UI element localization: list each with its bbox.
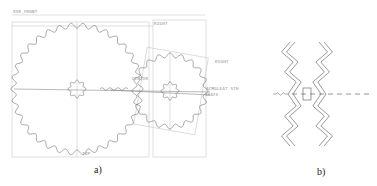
figure-a <box>12 15 208 157</box>
caption-a: a) <box>94 164 102 175</box>
figure-b <box>273 42 372 146</box>
label-right-gear: RIGHT <box>215 59 229 64</box>
caption-b: b) <box>317 166 325 177</box>
gear-group-a <box>11 23 208 154</box>
gear-diagram: XSR_FRONT RIGHT RIGHT CENTER ACMGLEAT ST… <box>0 0 377 186</box>
label-center: CENTER <box>132 76 149 81</box>
right-frame <box>153 20 206 157</box>
label-right-top: RIGHT <box>154 21 168 26</box>
shaft-axis-line-2 <box>110 90 210 95</box>
spring-wave-b <box>273 93 288 96</box>
meshing-teeth <box>282 42 333 146</box>
label-axis: ACMGLEAT STH <box>206 86 239 91</box>
label-bottom: TOP <box>82 151 90 156</box>
label-axis-sub: SHAFE <box>205 92 219 97</box>
label-front: XSR_FRONT <box>13 9 38 14</box>
